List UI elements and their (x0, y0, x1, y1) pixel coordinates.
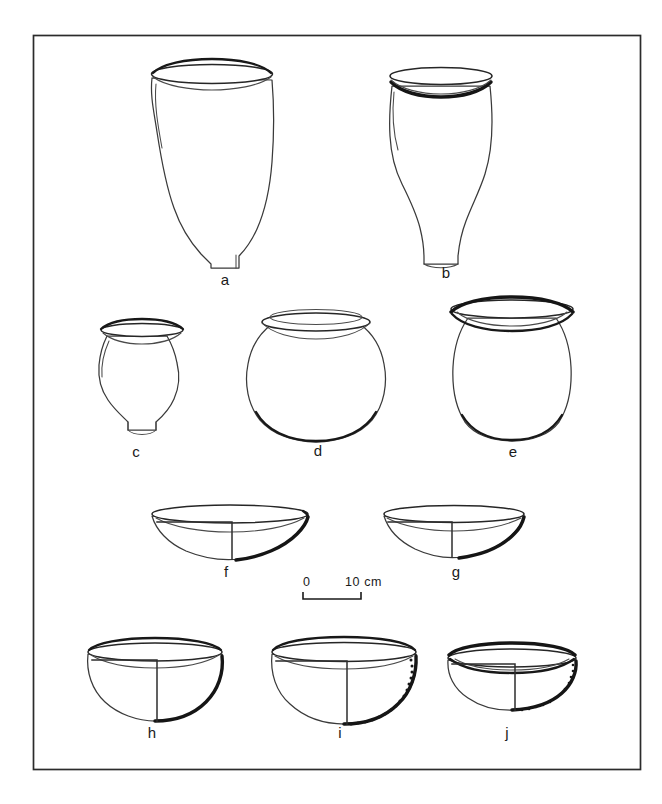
vessel-c-rim (101, 324, 183, 337)
vessel-b-label: b (442, 264, 450, 281)
vessel-g-rim (384, 506, 524, 523)
vessel-i-label: i (338, 724, 341, 741)
vessel-a-rim (152, 65, 273, 84)
vessel-a-label: a (221, 271, 230, 288)
vessel-h-label: h (148, 724, 156, 741)
vessel-c-label: c (132, 443, 140, 460)
scale-max-label: 10 cm (345, 575, 382, 589)
vessel-g-label: g (452, 563, 460, 580)
vessel-f-rim (152, 505, 308, 523)
vessel-d-label: d (314, 442, 322, 459)
vessel-h-rim (88, 643, 222, 661)
plate-canvas: a b c (0, 0, 662, 804)
vessel-e-label: e (509, 443, 517, 460)
vessel-i-rim (272, 643, 416, 662)
vessel-b-rim (390, 68, 492, 85)
vessel-j-label: j (504, 724, 508, 741)
scale-zero-label: 0 (303, 575, 311, 589)
vessel-d-rim-outer (262, 313, 370, 331)
figure-plate: a b c (0, 0, 662, 804)
